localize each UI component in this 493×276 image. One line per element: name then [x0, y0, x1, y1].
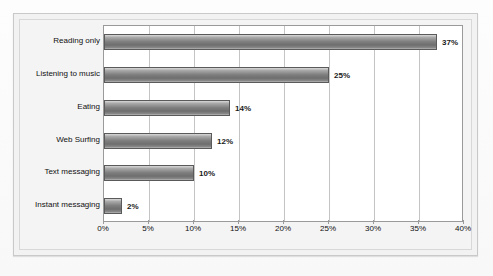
- bar-row: 14%: [104, 92, 464, 125]
- x-axis-tick-35: 35%: [410, 224, 426, 233]
- bar-wrapper: 2%: [104, 198, 464, 214]
- y-axis-label-web-surfing: Web Surfing: [20, 124, 100, 157]
- y-axis-label-eating: Eating: [20, 91, 100, 124]
- bar[interactable]: [104, 100, 230, 116]
- bar-wrapper: 10%: [104, 165, 464, 181]
- bar-value-label: 14%: [235, 103, 251, 112]
- bar-value-label: 2%: [127, 202, 139, 211]
- x-axis-tick-25: 25%: [320, 224, 336, 233]
- bar-wrapper: 25%: [104, 67, 464, 83]
- bar-value-label: 25%: [334, 70, 350, 79]
- bar-value-label: 10%: [199, 169, 215, 178]
- x-axis-tick-40: 40%: [455, 224, 471, 233]
- bar[interactable]: [104, 67, 329, 83]
- bar-row: 37%: [104, 26, 464, 59]
- y-axis-label-reading-only: Reading only: [20, 25, 100, 58]
- bar[interactable]: [104, 34, 437, 50]
- bar-wrapper: 12%: [104, 133, 464, 149]
- bar-row: 2%: [104, 190, 464, 223]
- bar-row: 25%: [104, 59, 464, 92]
- bar[interactable]: [104, 165, 194, 181]
- bar[interactable]: [104, 198, 122, 214]
- x-axis-tick-0: 0%: [97, 224, 109, 233]
- bar-value-label: 37%: [442, 38, 458, 47]
- bar-value-label: 12%: [217, 136, 233, 145]
- bar-wrapper: 37%: [104, 34, 464, 50]
- x-axis-tick-15: 15%: [230, 224, 246, 233]
- page-background: Reading onlyListening to musicEatingWeb …: [0, 0, 493, 276]
- x-axis-tick-30: 30%: [365, 224, 381, 233]
- chart-plot-container: Reading onlyListening to musicEatingWeb …: [19, 19, 472, 250]
- x-axis-tick-labels: 0%5%10%15%20%25%30%35%40%: [103, 224, 463, 240]
- y-axis-label-text-messaging: Text messaging: [20, 156, 100, 189]
- bar-wrapper: 14%: [104, 100, 464, 116]
- x-axis-tick-10: 10%: [185, 224, 201, 233]
- bar-row: 12%: [104, 125, 464, 158]
- y-axis-label-instant-messaging: Instant messaging: [20, 189, 100, 222]
- chart-frame: Reading onlyListening to musicEatingWeb …: [13, 13, 478, 256]
- bar[interactable]: [104, 133, 212, 149]
- plot-area: 37%25%14%12%10%2%: [103, 25, 463, 222]
- x-axis-tick-20: 20%: [275, 224, 291, 233]
- y-axis-category-labels: Reading onlyListening to musicEatingWeb …: [20, 25, 100, 222]
- x-axis-tick-5: 5%: [142, 224, 154, 233]
- y-axis-label-listening-to-music: Listening to music: [20, 58, 100, 91]
- bar-row: 10%: [104, 157, 464, 190]
